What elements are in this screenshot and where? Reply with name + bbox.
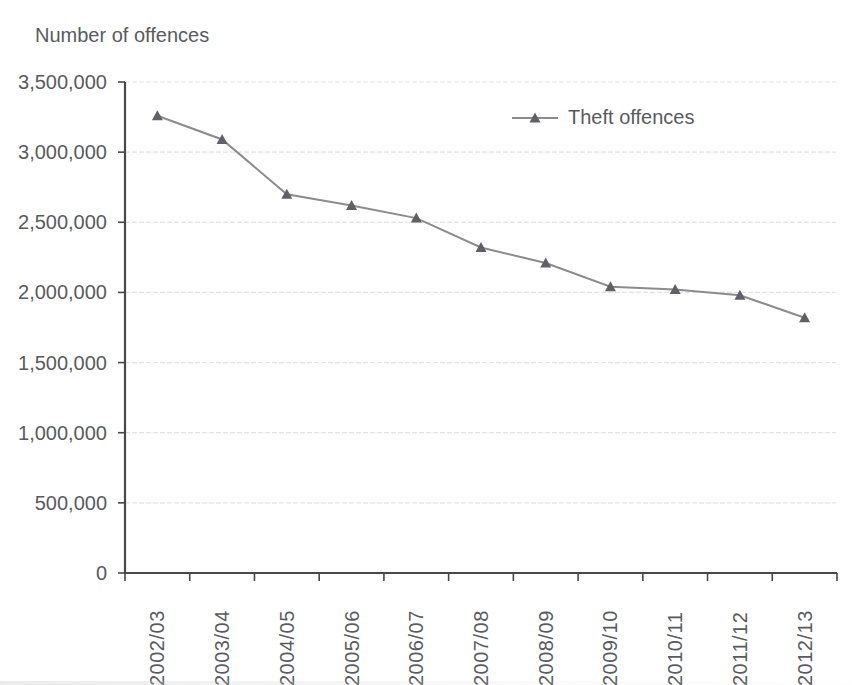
x-axis-tick-label: 2007/08 <box>470 589 492 685</box>
plot-area <box>0 0 852 685</box>
x-axis-tick-label: 2003/04 <box>211 589 233 685</box>
y-axis-tick-label: 1,000,000 <box>0 422 107 444</box>
x-axis-tick-label: 2012/13 <box>794 589 816 685</box>
legend-label: Theft offences <box>568 106 694 129</box>
y-axis-tick-label: 0 <box>0 562 107 584</box>
y-axis-tick-label: 3,000,000 <box>0 141 107 163</box>
x-axis-tick-label: 2011/12 <box>729 589 751 685</box>
y-axis-tick-label: 1,500,000 <box>0 352 107 374</box>
x-axis-tick-label: 2008/09 <box>535 589 557 685</box>
x-axis-tick-label: 2005/06 <box>341 589 363 685</box>
chart: Number of offences 3,500,0003,000,0002,5… <box>0 0 852 685</box>
data-point-triangle-marker <box>152 110 163 120</box>
x-axis-tick-label: 2006/07 <box>405 589 427 685</box>
y-axis-tick-label: 500,000 <box>0 492 107 514</box>
x-axis-tick-label: 2002/03 <box>146 589 168 685</box>
y-axis-tick-label: 2,500,000 <box>0 211 107 233</box>
y-axis-tick-label: 3,500,000 <box>0 71 107 93</box>
data-point-triangle-marker <box>476 242 487 252</box>
y-axis-tick-label: 2,000,000 <box>0 281 107 303</box>
series-line <box>157 116 804 318</box>
x-axis-tick-label: 2009/10 <box>599 589 621 685</box>
legend-line-marker-icon <box>512 111 558 125</box>
legend: Theft offences <box>512 106 694 129</box>
x-axis-tick-label: 2010/11 <box>664 589 686 685</box>
page-scan-shadow <box>0 681 852 685</box>
x-axis-tick-label: 2004/05 <box>276 589 298 685</box>
